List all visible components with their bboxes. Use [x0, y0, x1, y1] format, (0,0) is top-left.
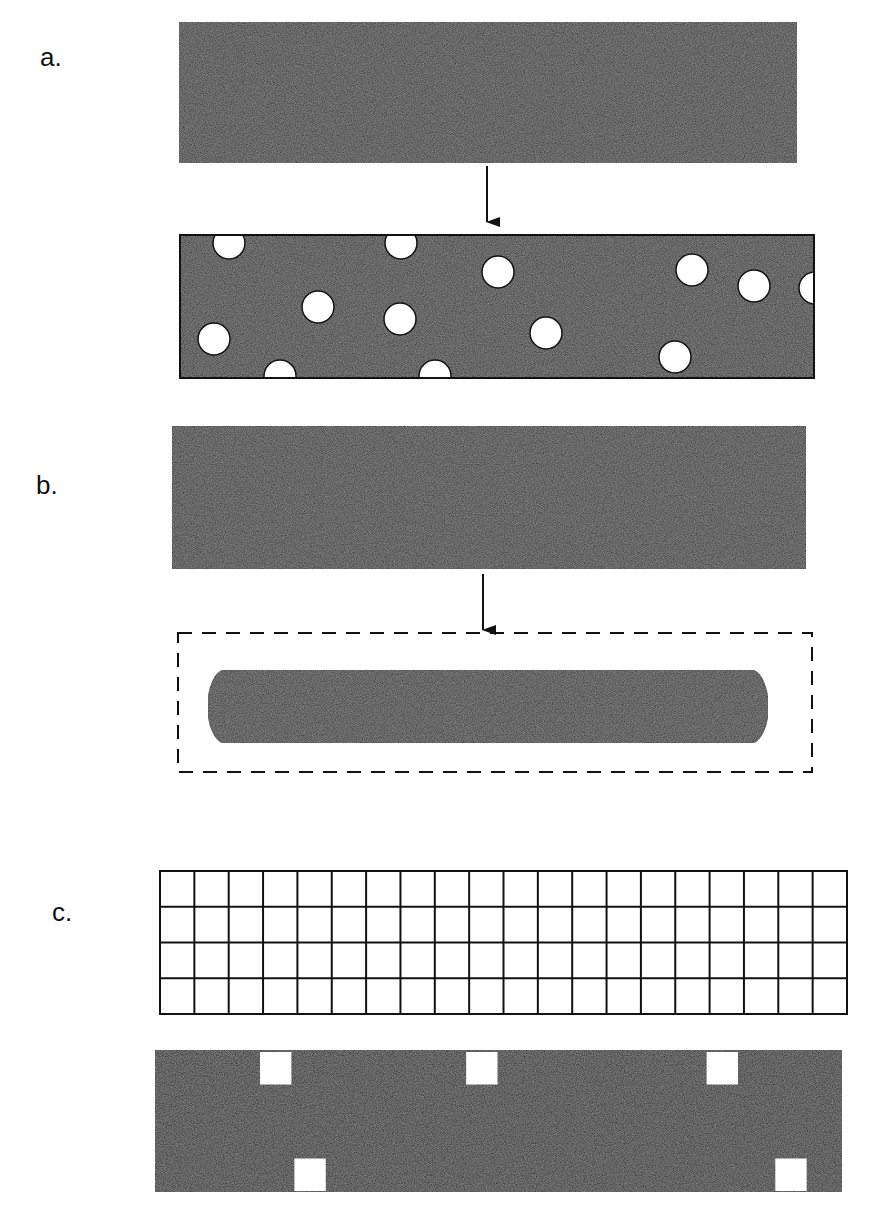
empty-cell — [707, 1052, 738, 1085]
pore-hole — [385, 227, 417, 259]
pore-hole — [384, 303, 416, 335]
panel-b-solid-bar — [172, 426, 806, 569]
panel-c — [155, 871, 847, 1192]
panel-c-filled-grid — [155, 1050, 842, 1192]
empty-cell — [775, 1159, 806, 1192]
pore-hole — [659, 341, 691, 373]
pore-hole — [482, 256, 514, 288]
empty-cell — [294, 1159, 325, 1192]
pore-hole — [198, 323, 230, 355]
empty-cell — [260, 1052, 291, 1085]
diagram-canvas — [0, 0, 880, 1222]
pore-hole — [530, 317, 562, 349]
panel-a-porous-bar — [180, 227, 831, 392]
panel-a-solid-bar — [179, 22, 797, 163]
pore-hole — [738, 270, 770, 302]
panel-b-shrunk-bar — [208, 670, 768, 743]
pore-hole — [419, 360, 451, 392]
empty-cell — [466, 1052, 497, 1085]
panel-b — [172, 426, 812, 772]
panel-a — [179, 22, 831, 392]
pore-hole — [213, 227, 245, 259]
pore-hole — [264, 360, 296, 392]
pore-hole — [676, 254, 708, 286]
panel-c-empty-grid — [160, 871, 847, 1014]
pore-hole — [302, 291, 334, 323]
